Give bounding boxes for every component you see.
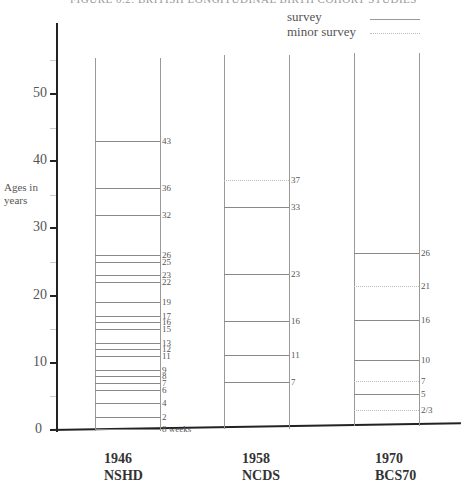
survey-line	[95, 356, 160, 357]
survey-line	[354, 394, 419, 395]
y-axis-title-line2: years	[4, 194, 38, 207]
survey-line	[95, 255, 160, 256]
survey-line	[95, 302, 160, 303]
survey-age-label: 16	[291, 317, 300, 326]
ladder-left-rail	[354, 53, 355, 426]
survey-age-label: 7	[421, 377, 426, 386]
y-major-tick	[50, 160, 58, 162]
cohort-name: BCS70	[375, 467, 416, 484]
survey-age-label: 16	[421, 316, 430, 325]
survey-age-label: 7	[291, 378, 296, 387]
survey-age-label: 26	[421, 249, 430, 258]
y-tick-label: 50	[7, 85, 47, 101]
survey-line	[95, 370, 160, 371]
cohort-label-bcs70: 1970 BCS70	[375, 450, 416, 484]
y-minor-tick	[50, 329, 56, 330]
survey-line	[95, 376, 160, 377]
y-tick-label: 10	[7, 354, 47, 370]
survey-line	[224, 207, 289, 208]
y-minor-tick	[50, 195, 56, 196]
survey-age-label: 23	[162, 271, 171, 280]
minor-survey-line	[354, 410, 419, 411]
survey-age-label: 19	[162, 298, 171, 307]
legend-minor-line	[370, 33, 420, 34]
y-axis-title: Ages in years	[4, 181, 38, 207]
survey-line	[224, 274, 289, 275]
y-major-tick	[50, 93, 58, 95]
ladder-left-rail	[95, 58, 96, 431]
survey-age-label: 26	[162, 251, 171, 260]
survey-line	[224, 321, 289, 322]
y-minor-tick	[50, 262, 56, 263]
survey-age-label: 23	[291, 270, 300, 279]
survey-line	[95, 262, 160, 263]
ladder-right-rail	[419, 53, 420, 426]
y-minor-tick	[50, 128, 56, 129]
survey-age-label: 11	[291, 351, 300, 360]
survey-line	[224, 382, 289, 383]
y-minor-tick	[50, 60, 56, 61]
y-tick-label: 0	[2, 421, 42, 437]
cohort-label-nshd: 1946 NSHD	[104, 450, 143, 484]
figure-title: FIGURE 0.2: BRITISH LONGITUDINAL BIRTH C…	[70, 0, 417, 5]
legend-survey-line	[370, 19, 420, 20]
y-major-tick	[50, 362, 58, 364]
ladder-right-rail	[289, 55, 290, 429]
y-tick-label: 30	[7, 219, 47, 235]
y-tick-label: 20	[7, 287, 47, 303]
survey-line	[95, 390, 160, 391]
survey-line	[95, 141, 160, 142]
cohort-label-ncds: 1958 NCDS	[242, 450, 280, 484]
survey-line	[95, 343, 160, 344]
survey-age-label: 17	[162, 312, 171, 321]
y-major-tick	[50, 295, 58, 297]
cohort-name: NSHD	[104, 467, 143, 484]
survey-line	[95, 383, 160, 384]
survey-line	[354, 253, 419, 254]
survey-age-label: 36	[162, 184, 171, 193]
minor-survey-line	[354, 381, 419, 382]
survey-age-label: 33	[291, 203, 300, 212]
survey-age-label: 4	[162, 399, 167, 408]
legend-survey-label: survey	[287, 9, 322, 25]
legend-minor-label: minor survey	[287, 24, 356, 40]
survey-line	[95, 349, 160, 350]
survey-line	[95, 188, 160, 189]
minor-survey-line	[354, 286, 419, 287]
survey-line	[95, 215, 160, 216]
cohort-year: 1946	[104, 450, 143, 467]
survey-line	[354, 320, 419, 321]
survey-age-label: 10	[421, 356, 430, 365]
survey-line	[354, 360, 419, 361]
survey-age-label: 5	[421, 390, 426, 399]
survey-line	[95, 417, 160, 418]
survey-line	[224, 355, 289, 356]
survey-line	[95, 322, 160, 323]
survey-line	[95, 329, 160, 330]
cohort-name: NCDS	[242, 467, 280, 484]
survey-age-label: 37	[291, 176, 300, 185]
survey-age-label: 32	[162, 211, 171, 220]
survey-age-label: 2	[162, 413, 167, 422]
survey-line	[95, 275, 160, 276]
survey-line	[95, 403, 160, 404]
ladder-left-rail	[224, 55, 225, 429]
survey-age-label: 21	[421, 282, 430, 291]
y-tick-label: 40	[7, 152, 47, 168]
ladder-right-rail	[160, 58, 161, 431]
survey-line	[95, 316, 160, 317]
survey-age-label: 43	[162, 137, 171, 146]
survey-age-label: 2/3	[421, 406, 433, 415]
cohort-year: 1958	[242, 450, 280, 467]
y-major-tick	[50, 227, 58, 229]
minor-survey-line	[224, 180, 289, 181]
survey-line	[95, 282, 160, 283]
y-axis-title-line1: Ages in	[4, 181, 38, 194]
survey-age-label: 13	[162, 339, 171, 348]
survey-age-label: 8 weeks	[162, 425, 191, 434]
survey-age-label: 9	[162, 366, 167, 375]
y-minor-tick	[50, 396, 56, 397]
survey-line	[95, 429, 160, 430]
cohort-year: 1970	[375, 450, 416, 467]
